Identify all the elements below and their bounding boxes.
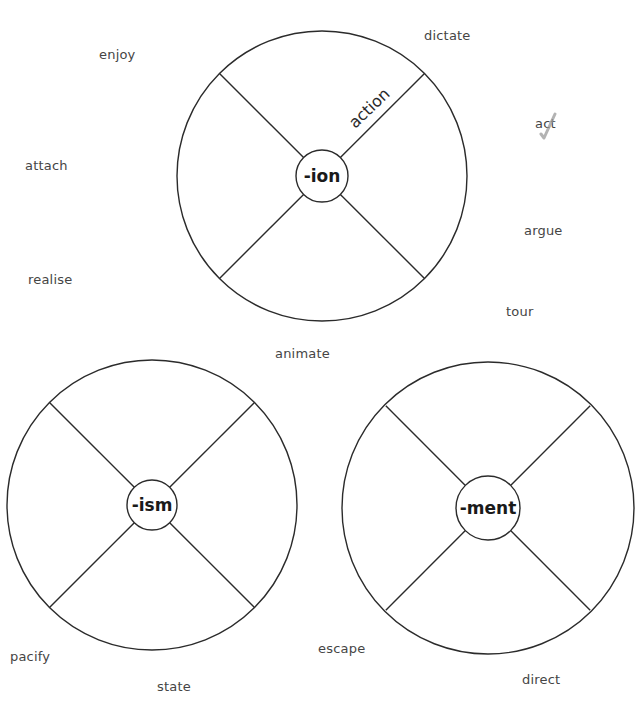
word-state: state <box>157 679 191 695</box>
word-enjoy: enjoy <box>99 47 136 63</box>
spoke-top-right <box>511 406 591 486</box>
suffix-label-ment: -ment <box>460 498 517 518</box>
word-attach: attach <box>25 158 68 174</box>
spoke-bottom-right <box>511 531 591 611</box>
suffix-label-ion: -ion <box>304 166 341 186</box>
word-escape: escape <box>318 641 365 657</box>
word-dictate: dictate <box>424 28 471 44</box>
word-pacify: pacify <box>10 649 50 665</box>
spoke-top-left <box>220 74 304 158</box>
wheel-ion: -ion action <box>177 31 467 321</box>
spoke-bottom-right <box>340 194 424 278</box>
spoke-bottom-left <box>220 194 304 278</box>
word-realise: realise <box>28 272 72 288</box>
spoke-bottom-left <box>50 523 135 608</box>
word-argue: argue <box>524 223 563 239</box>
wheel-ment: -ment <box>342 362 634 654</box>
spoke-top-right <box>170 403 255 488</box>
segment-label-action: action <box>345 84 394 132</box>
wheel-ism: -ism <box>7 360 297 650</box>
spoke-bottom-left <box>386 531 466 611</box>
spoke-top-left <box>386 406 466 486</box>
word-act: act <box>535 116 556 132</box>
spoke-top-left <box>50 403 135 488</box>
word-animate: animate <box>275 346 330 362</box>
word-tour: tour <box>506 304 533 320</box>
suffix-label-ism: -ism <box>132 495 173 515</box>
spoke-bottom-right <box>170 523 255 608</box>
word-direct: direct <box>522 672 560 688</box>
